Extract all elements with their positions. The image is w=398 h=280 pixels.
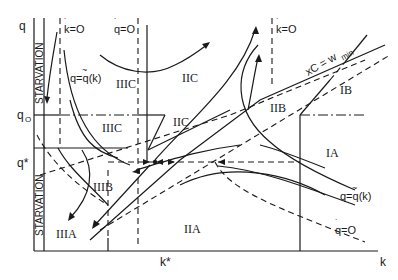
region-iib: IIB	[270, 101, 286, 115]
region-iia: IIA	[184, 222, 201, 236]
k-star-label: k*	[160, 255, 171, 269]
region-iiia: IIIA	[56, 227, 77, 241]
ia-trajectory	[260, 145, 325, 168]
kdot-zero-left-label: k=O	[64, 23, 85, 35]
saddle-line-2	[100, 55, 390, 230]
arrow-head	[252, 26, 259, 34]
top-trajectory	[100, 44, 208, 72]
region-iic-top: IIC	[182, 71, 198, 85]
arrow-head	[132, 168, 140, 174]
region-ib: IB	[340, 83, 352, 97]
svg-text:min: min	[339, 48, 355, 62]
tilde-mark: ~	[82, 65, 87, 75]
ib-boundary-dashed	[330, 62, 345, 80]
q0-subscript: O	[25, 115, 31, 124]
starvation-label-top: STARVATION	[34, 43, 45, 105]
iic-boundary	[148, 110, 230, 150]
qdot-dot: ˙	[335, 218, 338, 228]
qdot-zero-top-label: q=O	[114, 23, 136, 35]
region-iiic-top: IIIC	[116, 77, 136, 91]
starvation-trajectory	[47, 32, 57, 98]
q0-label: q	[17, 108, 24, 122]
qdot-dot: ˙	[114, 17, 117, 27]
kdot-dot: ˙	[64, 17, 67, 27]
iic-lower	[148, 115, 165, 150]
region-iiic-mid: IIIC	[102, 121, 122, 135]
saddle-point	[153, 160, 157, 164]
saddle-line-1	[90, 45, 385, 240]
phase-diagram: q k q O q* k* STARVATION STARVATION k=O …	[0, 0, 398, 280]
region-iiib: IIIB	[93, 180, 113, 194]
iib-hyperbola	[241, 45, 355, 190]
qdot-zero-bottom-label: q=O	[335, 224, 357, 236]
tilde-mark: ~	[352, 183, 357, 193]
region-ia: IA	[326, 146, 339, 160]
kdot-zero-right-label: k=O	[276, 23, 297, 35]
q-star-label: q*	[17, 156, 29, 170]
stable-branch-down	[95, 165, 150, 225]
region-iic-mid: IIC	[173, 115, 189, 129]
arrow-head	[255, 54, 262, 62]
q-axis-label: q	[19, 19, 26, 33]
starvation-label-bottom: STARVATION	[34, 175, 45, 237]
lower-trajectory-1	[180, 172, 325, 195]
trajectories	[37, 26, 390, 242]
k-axis-label: k	[380, 255, 387, 269]
kdot-dot: ˙	[276, 17, 279, 27]
ib-boundary-solid	[300, 80, 330, 115]
iiib-lower-curve	[58, 148, 108, 205]
arrow-head	[218, 159, 225, 165]
